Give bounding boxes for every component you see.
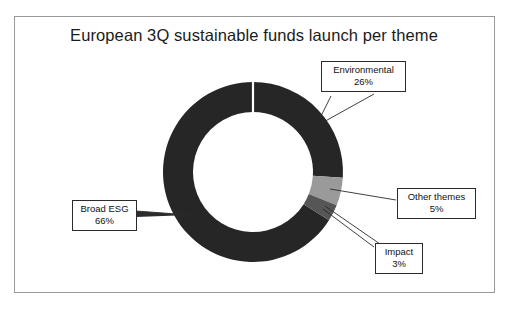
callout-broad-esg[interactable]: Broad ESG 66% — [72, 200, 137, 231]
callout-other-themes[interactable]: Other themes 5% — [397, 188, 476, 219]
callout-broad-esg-label: Broad ESG — [80, 203, 128, 214]
leader-impact-a — [325, 206, 380, 244]
donut-chart — [0, 0, 508, 310]
callout-impact-label: Impact — [385, 246, 414, 257]
slice-environmental[interactable] — [253, 82, 343, 178]
callout-environmental-value: 26% — [326, 76, 401, 88]
leader-impact-b — [323, 209, 374, 247]
leader-environmental-b — [320, 94, 374, 124]
callout-impact-value: 3% — [380, 258, 418, 270]
callout-environmental[interactable]: Environmental 26% — [321, 61, 406, 92]
callout-broad-esg-value: 66% — [77, 215, 132, 227]
donut-svg — [0, 0, 508, 310]
callout-environmental-label: Environmental — [333, 64, 394, 75]
callout-other-themes-value: 5% — [402, 203, 471, 215]
callout-other-themes-label: Other themes — [408, 191, 466, 202]
callout-impact[interactable]: Impact 3% — [375, 243, 423, 274]
